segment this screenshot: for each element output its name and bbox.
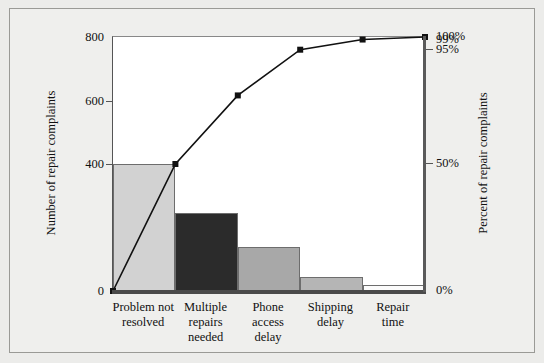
- category-label-line: Phone: [237, 300, 299, 315]
- y2-tick-label: 0%: [436, 284, 453, 297]
- category-label-2: Multiplerepairsneeded: [174, 300, 236, 345]
- category-label-5: Repairtime: [362, 300, 424, 345]
- y-tick-mark: [106, 101, 113, 102]
- category-label-line: time: [362, 315, 424, 330]
- cumulative-line-series: [113, 37, 425, 291]
- line-marker-1: [172, 161, 178, 167]
- x-axis-line: [112, 290, 426, 294]
- y2-axis-title: Percent of repair complaints: [476, 36, 492, 290]
- category-label-1: Problem notresolved: [112, 300, 174, 345]
- category-label-line: delay: [299, 315, 361, 330]
- category-label-line: Multiple: [174, 300, 236, 315]
- category-label-line: Shipping: [299, 300, 361, 315]
- plot-area: 0400600800: [112, 36, 424, 290]
- y-axis-title: Number of repair complaints: [44, 36, 60, 290]
- pareto-chart-figure: Number of repair complaints Percent of r…: [0, 0, 544, 363]
- y2-tick-mark: [426, 163, 433, 164]
- category-label-line: Problem not: [112, 300, 174, 315]
- y-tick-label: 600: [85, 94, 104, 107]
- y-tick-mark: [106, 37, 113, 38]
- y2-tick-mark: [426, 290, 433, 291]
- line-marker-3: [297, 47, 303, 53]
- y2-axis-line: [423, 36, 426, 292]
- cumulative-line: [113, 37, 425, 291]
- y2-tick-mark: [426, 39, 433, 40]
- y2-tick-label: 50%: [436, 157, 459, 170]
- category-label-line: repairs: [174, 315, 236, 330]
- y2-tick-mark: [426, 49, 433, 50]
- y2-tick-label: 100%: [436, 30, 465, 43]
- line-marker-2: [235, 92, 241, 98]
- category-label-line: resolved: [112, 315, 174, 330]
- y-tick-mark: [106, 164, 113, 165]
- category-label-line: needed: [174, 330, 236, 345]
- category-label-line: Repair: [362, 300, 424, 315]
- y-tick-label: 400: [85, 158, 104, 171]
- category-label-line: access: [237, 315, 299, 330]
- y-tick-label: 800: [85, 31, 104, 44]
- category-label-line: delay: [237, 330, 299, 345]
- line-marker-4: [360, 37, 366, 43]
- category-label-3: Phoneaccessdelay: [237, 300, 299, 345]
- x-axis-category-labels: Problem notresolvedMultiplerepairsneeded…: [112, 300, 424, 345]
- y-tick-label: 0: [98, 285, 104, 298]
- y2-tick-mark: [426, 36, 433, 37]
- category-label-4: Shippingdelay: [299, 300, 361, 345]
